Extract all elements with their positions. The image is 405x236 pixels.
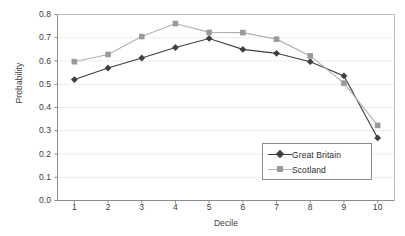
data-point-scotland-2: [105, 52, 111, 58]
series-line-great-britain: [74, 38, 377, 138]
y-tick-label: 0.3: [21, 126, 51, 135]
data-point-great-britain-2: [105, 65, 112, 72]
data-point-great-britain-4: [172, 44, 179, 51]
data-point-great-britain-7: [273, 50, 280, 57]
x-tick-label: 1: [62, 203, 86, 212]
data-point-great-britain-8: [307, 58, 314, 65]
legend-item-scotland: Scotland: [263, 162, 371, 177]
legend-label-great-britain: Great Britain: [292, 150, 341, 160]
x-axis-title: Decile: [57, 218, 395, 228]
line-chart: 0.00.10.20.30.40.50.60.70.8 12345678910 …: [0, 0, 405, 236]
data-point-great-britain-10: [374, 135, 381, 142]
legend-label-scotland: Scotland: [292, 165, 326, 175]
data-point-great-britain-3: [138, 55, 145, 62]
data-point-scotland-3: [139, 34, 145, 40]
data-point-scotland-8: [307, 53, 313, 59]
y-tick-label: 0.1: [21, 173, 51, 182]
series-markers: [71, 21, 381, 142]
x-tick-label: 5: [197, 203, 221, 212]
data-point-great-britain-1: [71, 76, 78, 83]
y-tick-label: 0.4: [21, 103, 51, 112]
data-point-scotland-5: [206, 30, 212, 36]
x-tick-label: 8: [298, 203, 322, 212]
data-point-scotland-6: [240, 30, 246, 36]
x-tick-label: 7: [265, 203, 289, 212]
chart-legend: Great Britain Scotland: [262, 143, 372, 180]
y-tick-label: 0.2: [21, 150, 51, 159]
series-line-scotland: [74, 24, 377, 126]
y-tick-label: 0.8: [21, 10, 51, 19]
data-point-scotland-7: [274, 36, 280, 42]
y-axis-title: Probability: [14, 28, 24, 138]
y-tick-label: 0.6: [21, 57, 51, 66]
x-tick-label: 6: [231, 203, 255, 212]
data-point-great-britain-5: [206, 35, 213, 42]
series-lines: [74, 24, 377, 138]
x-tick-label: 10: [366, 203, 390, 212]
y-tick-label: 0.5: [21, 80, 51, 89]
y-tick-label: 0.0: [21, 196, 51, 205]
data-point-scotland-1: [72, 59, 78, 65]
data-point-scotland-4: [173, 21, 179, 27]
legend-key-diamond-icon: [268, 149, 292, 160]
x-tick-label: 4: [163, 203, 187, 212]
y-tick-label: 0.7: [21, 33, 51, 42]
x-tick-label: 2: [96, 203, 120, 212]
plot-area: [0, 0, 405, 236]
legend-item-great-britain: Great Britain: [263, 147, 371, 162]
data-point-great-britain-6: [239, 46, 246, 53]
data-point-great-britain-9: [341, 72, 348, 79]
data-point-scotland-9: [341, 80, 347, 86]
data-point-scotland-10: [375, 123, 381, 129]
x-tick-label: 3: [130, 203, 154, 212]
legend-key-square-icon: [268, 164, 292, 175]
x-tick-label: 9: [332, 203, 356, 212]
